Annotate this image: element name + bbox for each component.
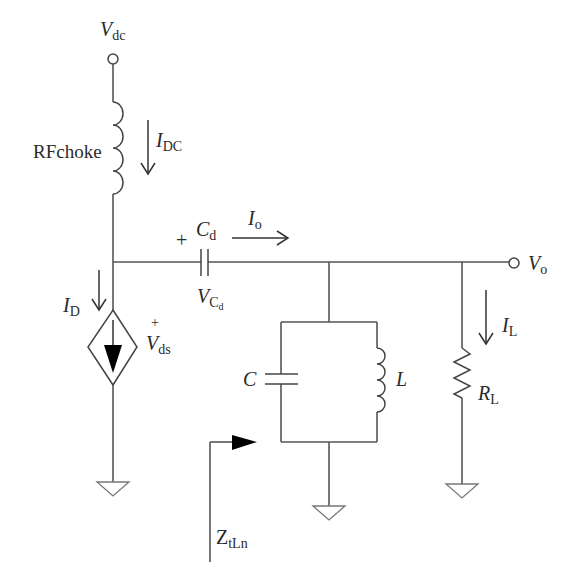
cd-plus-sign: + xyxy=(176,229,187,251)
id-label: ID xyxy=(62,294,80,319)
dependent-current-source-icon xyxy=(88,310,137,482)
vdc-label: Vdc xyxy=(100,18,125,43)
idc-label: IDC xyxy=(155,129,182,154)
c-label: C xyxy=(243,368,257,390)
il-label: IL xyxy=(501,314,517,339)
rl-label: RL xyxy=(477,382,499,407)
tank-capacitor-icon xyxy=(265,374,298,384)
l-label: L xyxy=(395,368,407,390)
ztln-label: ZtLn xyxy=(216,526,248,551)
ground-icon xyxy=(97,482,129,496)
tank-inductor-icon xyxy=(377,348,385,412)
id-arrow-icon xyxy=(92,270,106,310)
io-label: Io xyxy=(247,207,262,232)
il-arrow-icon xyxy=(479,290,493,344)
ground-icon xyxy=(446,484,478,498)
ground-icon xyxy=(313,506,345,520)
vo-label: Vo xyxy=(528,252,547,277)
vdc-terminal xyxy=(108,54,118,102)
cd-capacitor-icon xyxy=(201,249,208,276)
load-branch xyxy=(454,262,470,484)
circuit-diagram: Vdc RFchoke IDC + Cd VCd Io xyxy=(0,0,578,588)
vcd-label: VCd xyxy=(197,285,224,312)
idc-arrow-icon xyxy=(141,120,155,174)
vds-label: Vds xyxy=(146,332,171,357)
vo-terminal xyxy=(509,258,519,268)
rfchoke-label: RFchoke xyxy=(33,141,102,162)
io-arrow-icon xyxy=(232,231,288,245)
rf-choke-inductor-icon xyxy=(113,102,123,310)
cd-label: Cd xyxy=(196,218,216,243)
vds-plus-sign: + xyxy=(151,315,159,330)
